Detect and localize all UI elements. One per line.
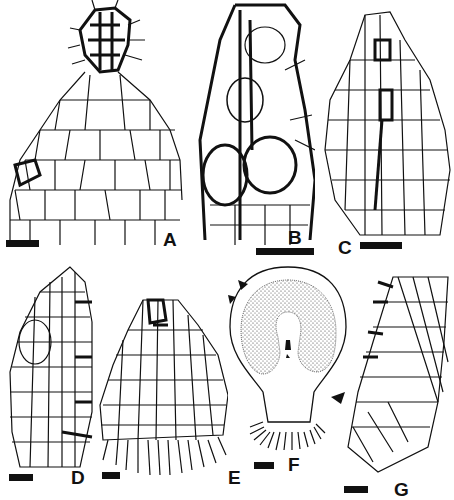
- scale-bar-d: [9, 474, 33, 481]
- panel-a: A: [0, 0, 185, 250]
- panel-c-drawing: [320, 0, 454, 255]
- scale-bar-e: [102, 472, 120, 479]
- scale-bar-f: [254, 462, 274, 469]
- panel-label-f: F: [288, 455, 300, 474]
- panel-label-d: D: [71, 468, 85, 487]
- panel-f: F: [228, 262, 348, 493]
- panel-label-b: B: [288, 228, 302, 247]
- panel-label-a: A: [163, 230, 177, 249]
- panel-c: C: [320, 0, 454, 255]
- panel-d: D: [0, 262, 95, 493]
- scale-bar-a: [6, 240, 39, 247]
- panel-b-drawing: [190, 0, 315, 255]
- scale-bar-c: [360, 242, 402, 249]
- panel-d-drawing: [0, 262, 95, 493]
- panel-e: E: [98, 295, 228, 493]
- panel-a-drawing: [0, 0, 185, 250]
- panel-label-c: C: [338, 238, 352, 257]
- panel-g-drawing: [338, 262, 454, 493]
- panel-b: B: [190, 0, 315, 255]
- scale-bar-b: [256, 248, 314, 255]
- panel-label-g: G: [394, 480, 409, 499]
- panel-g: G: [338, 262, 454, 493]
- panel-e-drawing: [98, 295, 228, 493]
- scale-bar-g: [344, 486, 368, 493]
